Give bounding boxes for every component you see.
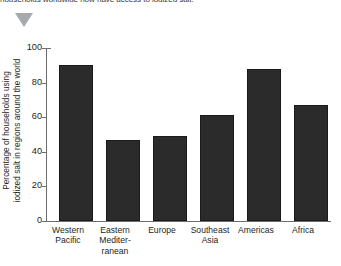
- y-axis-line: [46, 48, 47, 221]
- x-label-africa: Africa: [278, 225, 328, 235]
- bar-americas: [247, 69, 281, 221]
- x-label-americas: Americas: [231, 225, 281, 235]
- y-tick-100: 100: [46, 48, 51, 49]
- bar-western-pacific: [59, 65, 93, 221]
- x-label-europe: Europe: [137, 225, 187, 235]
- caption-text: households worldwide now have access to …: [0, 0, 341, 5]
- bar-europe: [153, 136, 187, 221]
- x-label-line: Mediter-: [90, 235, 140, 245]
- y-tick-60: 60: [46, 117, 51, 118]
- y-axis-label-line-1: Percentage of households using: [1, 36, 12, 226]
- x-label-eastern-mediterranean: Eastern Mediter- ranean: [90, 225, 140, 256]
- triangle-marker-icon: [15, 13, 33, 27]
- y-tick-20: 20: [46, 186, 51, 187]
- x-label-line: Africa: [278, 225, 328, 235]
- bar-chart: Percentage of households using iodized s…: [0, 36, 341, 266]
- bar-southeast-asia: [200, 115, 234, 221]
- bar-africa: [294, 105, 328, 221]
- x-label-line: Europe: [137, 225, 187, 235]
- y-tick-label-20: 20: [32, 180, 42, 191]
- x-label-line: Americas: [231, 225, 281, 235]
- y-tick-label-80: 80: [32, 77, 42, 88]
- x-label-line: Asia: [182, 235, 238, 245]
- x-axis-line: [46, 221, 331, 222]
- x-label-line: Western: [43, 225, 93, 235]
- y-axis-label: Percentage of households using iodized s…: [1, 36, 22, 226]
- x-label-southeast-asia: Southeast Asia: [182, 225, 238, 246]
- y-tick-0: 0: [46, 221, 51, 222]
- bar-eastern-mediterranean: [106, 140, 140, 221]
- x-label-line: Southeast: [182, 225, 238, 235]
- x-label-western-pacific: Western Pacific: [43, 225, 93, 246]
- x-label-line: Eastern: [90, 225, 140, 235]
- y-axis-label-line-2: iodized salt in regions around the world: [11, 36, 22, 226]
- y-tick-label-60: 60: [32, 111, 42, 122]
- y-tick-40: 40: [46, 152, 51, 153]
- plot-area: 0 20 40 60 80 100 Western: [46, 48, 331, 221]
- y-tick-label-100: 100: [27, 42, 42, 53]
- y-tick-80: 80: [46, 83, 51, 84]
- x-label-line: Pacific: [43, 235, 93, 245]
- x-label-line: ranean: [90, 246, 140, 256]
- y-tick-label-0: 0: [37, 215, 42, 226]
- y-tick-label-40: 40: [32, 146, 42, 157]
